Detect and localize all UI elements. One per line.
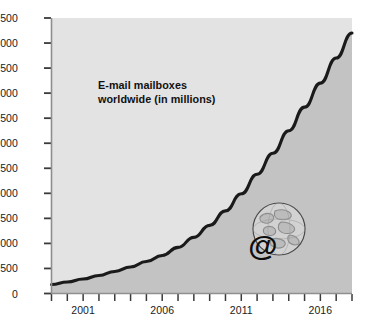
globe-at-email-icon: @: [248, 201, 308, 261]
annotation-line-2: worldwide (in millions): [98, 92, 258, 106]
annotation-line-1: E-mail mailboxes: [98, 78, 258, 92]
email-mailboxes-chart: 05001,0001,5002,0002,5003,0003,5004,0004…: [0, 0, 366, 327]
x-axis-tick-label: 2001: [71, 304, 95, 316]
x-axis-tick-label: 2011: [230, 304, 253, 316]
x-axis-tick-label: 2006: [150, 304, 174, 316]
x-axis-tick-label: 2016: [308, 304, 332, 316]
chart-annotation: E-mail mailboxes worldwide (in millions): [98, 78, 258, 107]
x-axis-labels: 2001200620112016: [0, 0, 366, 327]
svg-text:@: @: [248, 229, 277, 261]
